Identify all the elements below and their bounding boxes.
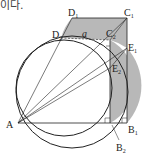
label-e1: E1 <box>128 42 137 54</box>
label-a: A <box>6 119 14 130</box>
label-d1: D1 <box>68 7 78 19</box>
geometry-diagram: A B1 B2 C1 C2 D1 D2 E1 E2 a <box>0 0 144 167</box>
right-angle-b2 <box>105 118 110 123</box>
label-d2: D2 <box>52 29 62 41</box>
label-b2: B2 <box>116 142 126 154</box>
label-length-a: a <box>82 28 87 39</box>
ray-a-e2 <box>18 68 110 123</box>
right-angle-b1 <box>122 118 127 123</box>
circle-2 <box>16 40 112 136</box>
shaded-strip-right <box>127 48 141 123</box>
ray-a-d1 <box>18 18 72 123</box>
label-b1: B1 <box>128 124 138 136</box>
label-c1: C1 <box>124 7 134 19</box>
